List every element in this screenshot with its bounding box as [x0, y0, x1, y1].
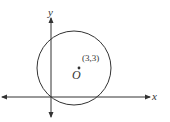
center-label: O	[72, 68, 81, 82]
diagram-canvas: y x O (3,3)	[0, 0, 170, 122]
x-axis-label: x	[151, 90, 157, 102]
center-coordinates-label: (3,3)	[82, 53, 99, 63]
y-axis-label: y	[47, 6, 53, 18]
